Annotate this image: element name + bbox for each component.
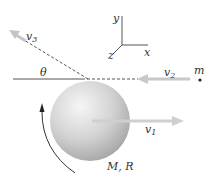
theta-label: θ xyxy=(40,66,47,79)
axis-x-label: x xyxy=(144,46,151,59)
v3-arrow xyxy=(9,30,26,41)
outgoing-path-dashed xyxy=(24,40,88,79)
v2-label: v2 xyxy=(164,66,175,80)
coordinate-axes: y x z xyxy=(107,12,151,62)
particle-m-dot xyxy=(198,78,201,81)
z-axis xyxy=(113,45,122,54)
axis-y-label: y xyxy=(112,12,120,25)
v1-label: v1 xyxy=(145,123,156,137)
collision-diagram: y x z θ v3 v2 m v1 M, R xyxy=(0,0,216,184)
mass-radius-label: M, R xyxy=(106,160,134,173)
axis-z-label: z xyxy=(107,49,114,62)
v3-label: v3 xyxy=(26,30,37,44)
particle-m-label: m xyxy=(194,64,204,77)
